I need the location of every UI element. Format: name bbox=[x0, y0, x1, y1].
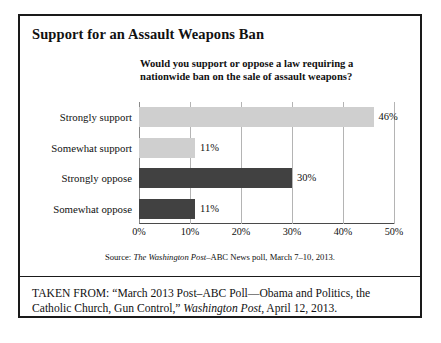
section-divider bbox=[20, 276, 420, 277]
attribution-suffix: , April 12, 2013. bbox=[261, 302, 337, 315]
source-prefix: Source: bbox=[105, 252, 133, 262]
x-tick-label-0: 0% bbox=[132, 226, 146, 237]
page-title: Support for an Assault Weapons Ban bbox=[32, 26, 264, 43]
bar-value-label: 11% bbox=[200, 199, 219, 219]
bar-row: Strongly support46% bbox=[139, 102, 394, 133]
source-suffix: –ABC News poll, March 7–10, 2013. bbox=[206, 252, 335, 262]
bar-chart-plot-area: Strongly support46%Somewhat support11%St… bbox=[139, 102, 394, 224]
bar-value-label: 46% bbox=[379, 107, 398, 127]
x-axis-ticks: 0%10%20%30%40%50% bbox=[139, 226, 394, 240]
x-tick-label-50: 50% bbox=[385, 226, 404, 237]
x-tick-label-40: 40% bbox=[334, 226, 353, 237]
x-tick-label-30: 30% bbox=[283, 226, 302, 237]
category-label: Strongly oppose bbox=[62, 168, 132, 188]
source-note: Source: The Washington Post–ABC News pol… bbox=[20, 252, 420, 262]
bar-strongly-support bbox=[139, 107, 374, 127]
x-tick-label-20: 20% bbox=[232, 226, 251, 237]
chart-subtitle: Would you support or oppose a law requir… bbox=[140, 58, 405, 83]
figure-container: Support for an Assault Weapons Ban Would… bbox=[18, 14, 422, 318]
bar-value-label: 11% bbox=[200, 138, 219, 158]
bar-row: Strongly oppose30% bbox=[139, 163, 394, 194]
bar-row: Somewhat oppose11% bbox=[139, 194, 394, 225]
category-label: Somewhat support bbox=[51, 138, 132, 158]
bar-somewhat-oppose bbox=[139, 199, 195, 219]
bar-value-label: 30% bbox=[297, 168, 316, 188]
bar-strongly-oppose bbox=[139, 168, 292, 188]
bar-somewhat-support bbox=[139, 138, 195, 158]
category-label: Strongly support bbox=[60, 107, 132, 127]
bar-row: Somewhat support11% bbox=[139, 133, 394, 164]
source-publication: The Washington Post bbox=[133, 252, 206, 262]
x-tick-label-10: 10% bbox=[181, 226, 200, 237]
attribution-publication: Washington Post bbox=[183, 302, 261, 315]
attribution-note: TAKEN FROM: “March 2013 Post–ABC Poll—Ob… bbox=[32, 286, 410, 316]
category-label: Somewhat oppose bbox=[53, 199, 132, 219]
